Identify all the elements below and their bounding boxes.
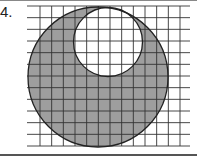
bottom-rule — [0, 154, 197, 156]
grid-figure — [0, 0, 197, 158]
